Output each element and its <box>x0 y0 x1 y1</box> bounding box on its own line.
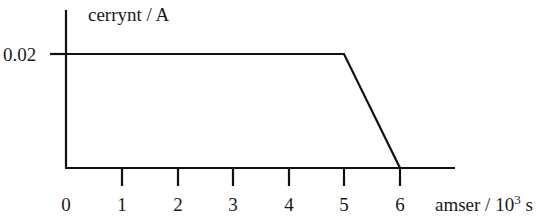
x-tick-label-5: 5 <box>339 194 349 215</box>
x-tick-label-1: 1 <box>117 194 127 215</box>
x-tick-label-0: 0 <box>61 194 71 215</box>
x-axis-label-unit: s <box>521 194 533 215</box>
x-tick-label-6: 6 <box>395 194 405 215</box>
x-tick-labels: 0 1 2 3 4 5 6 <box>61 194 405 215</box>
current-time-chart: 0.02 cerrynt / A 0 1 2 3 4 5 6 amser / 1… <box>0 0 552 217</box>
current-series-line <box>66 54 400 168</box>
x-axis-label: amser / 103 s <box>435 192 533 215</box>
x-tick-label-4: 4 <box>284 194 294 215</box>
y-axis-label: cerrynt / A <box>88 4 170 25</box>
x-axis-label-base: amser / 10 <box>435 194 514 215</box>
x-ticks <box>122 168 400 186</box>
x-tick-label-3: 3 <box>228 194 238 215</box>
y-tick-label-0.02: 0.02 <box>3 44 36 65</box>
x-tick-label-2: 2 <box>173 194 183 215</box>
